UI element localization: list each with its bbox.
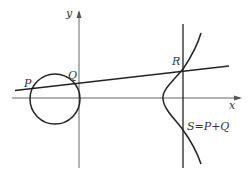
y-axis-arrow-icon [77,10,82,18]
point-q-label: Q [68,69,77,82]
curve-unbounded-component [163,33,201,164]
point-s-label: S=P+Q [187,120,229,133]
secant-line-pq [15,66,229,91]
point-r-label: R [171,55,180,68]
x-axis-label: x [229,99,236,112]
elliptic-curve-diagram: y x P Q R S=P+Q [0,0,251,183]
point-p-label: P [23,77,32,90]
y-axis-label: y [65,7,73,20]
